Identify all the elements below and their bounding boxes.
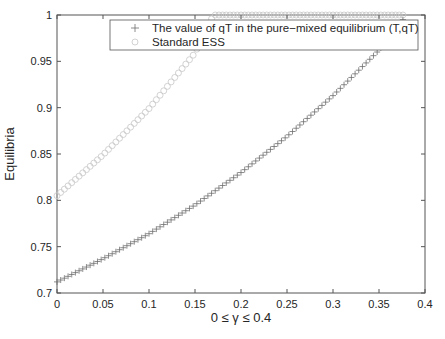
x-tick-label: 0.35 [368,298,389,310]
x-axis-label: 0 ≤ γ ≤ 0.4 [211,310,272,325]
y-tick-label: 0.75 [31,241,52,253]
legend-label-ess: Standard ESS [152,36,225,48]
legend: The value of qT in the pure−mixed equili… [110,20,419,50]
x-tick-label: 0.15 [184,298,205,310]
x-tick-label: 0 [54,298,60,310]
y-axis-label: Equilibria [2,126,17,180]
x-tick-label: 0.2 [233,298,248,310]
y-tick-label: 0.9 [37,102,52,114]
x-tick-label: 0.4 [417,298,432,310]
x-tick-label: 0.1 [141,298,156,310]
y-tick-label: 0.8 [37,194,52,206]
y-tick-label: 0.85 [31,148,52,160]
y-tick-label: 0.7 [37,287,52,299]
x-tick-label: 0.05 [92,298,113,310]
plot-area: 00.050.10.150.20.250.30.350.40.70.750.80… [0,0,445,339]
y-tick-label: 0.95 [31,55,52,67]
x-tick-label: 0.3 [325,298,340,310]
x-tick-label: 0.25 [276,298,297,310]
y-tick-label: 1 [46,9,52,21]
chart: 00.050.10.150.20.250.30.350.40.70.750.80… [0,0,445,339]
legend-label-qt: The value of qT in the pure−mixed equili… [152,22,419,34]
